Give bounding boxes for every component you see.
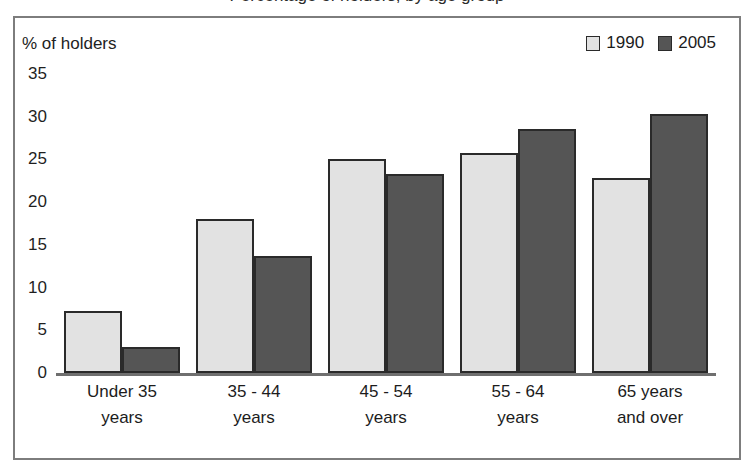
bar-group [196,74,312,373]
bar-2005-4 [518,129,576,373]
bar-group [328,74,444,373]
legend-item-2005: 2005 [658,33,716,53]
y-axis-tick-label: 20 [28,192,47,212]
x-label-line-2: years [188,405,320,431]
bar-1990-4 [460,153,518,373]
bar-group [64,74,180,373]
y-axis-tick-label: 5 [38,320,47,340]
x-label-line-1: 65 years [617,382,682,401]
x-axis-category-label: 45 - 54years [320,379,452,431]
x-label-line-1: 55 - 64 [492,382,545,401]
bar-group [460,74,576,373]
x-label-line-1: 35 - 44 [228,382,281,401]
bar-1990-2 [196,219,254,373]
x-label-line-2: and over [584,405,716,431]
bar-1990-1 [64,311,122,373]
bar-group [592,74,708,373]
x-label-line-1: Under 35 [87,382,157,401]
page-title: Percentage of holders, by age group [0,0,734,6]
x-axis-category-label: 55 - 64years [452,379,584,431]
x-label-line-1: 45 - 54 [360,382,413,401]
y-axis-tick-label: 30 [28,107,47,127]
y-axis-caption: % of holders [22,34,117,54]
bar-2005-1 [122,347,180,373]
x-axis-labels: Under 35years35 - 44years45 - 54years55 … [56,379,716,449]
y-axis-tick-label: 15 [28,235,47,255]
y-axis-tick-label: 25 [28,149,47,169]
legend-label-2005: 2005 [678,33,716,53]
bar-1990-5 [592,178,650,373]
x-axis-category-label: 35 - 44years [188,379,320,431]
y-axis-tick-label: 35 [28,64,47,84]
x-axis-line [56,373,716,376]
chart-legend: 1990 2005 [586,33,716,53]
legend-swatch-2005 [658,36,672,51]
y-axis-tick-label: 10 [28,278,47,298]
y-axis-tick-label: 0 [38,363,47,383]
bar-1990-3 [328,159,386,373]
x-label-line-2: years [56,405,188,431]
legend-swatch-1990 [586,36,600,51]
bar-2005-3 [386,174,444,373]
x-label-line-2: years [452,405,584,431]
x-label-line-2: years [320,405,452,431]
x-axis-category-label: 65 yearsand over [584,379,716,431]
legend-item-1990: 1990 [586,33,644,53]
bar-2005-2 [254,256,312,373]
chart-title-strip: Percentage of holders, by age group [0,0,734,13]
plot-area: 05101520253035 [56,74,716,373]
x-axis-category-label: Under 35years [56,379,188,431]
legend-label-1990: 1990 [606,33,644,53]
bar-2005-5 [650,114,708,373]
